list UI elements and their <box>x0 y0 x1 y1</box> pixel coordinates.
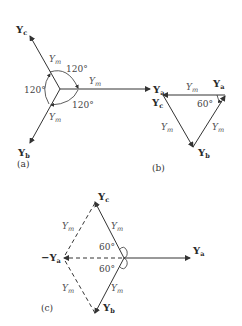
label-ym-a: Ym <box>89 76 101 88</box>
label-ym-left: Ym <box>161 122 173 134</box>
label-ym-lower-left: Ym <box>62 283 74 295</box>
angle-label-lower: 60° <box>99 264 115 274</box>
angle-label-upper: 60° <box>99 242 115 252</box>
dashed-yb-to-neg-ya <box>64 259 95 313</box>
angle-label-1: 120° <box>66 64 88 74</box>
label-ym-c: Ym <box>49 54 61 66</box>
label-ym-b: Ym <box>49 112 61 124</box>
label-neg-ya: −Ya <box>41 252 62 265</box>
angle-label-60: 60° <box>197 99 213 109</box>
label-ym-upper-left: Ym <box>62 221 74 233</box>
label-ym-lower-right: Ym <box>111 283 123 295</box>
label-yb: Yb <box>197 147 210 160</box>
angle-label-2: 120° <box>24 85 46 95</box>
caption-a: (a) <box>17 159 29 169</box>
label-yc: Yc <box>15 24 27 37</box>
label-ya: Ya <box>192 245 205 258</box>
label-yc: Yc <box>151 97 163 110</box>
label-ym-upper-right: Ym <box>111 221 123 233</box>
angle-label-3: 120° <box>72 100 94 110</box>
panel-c: Ya Yc Yb −Ya Ym Ym Ym Ym 60° 60° (c) <box>41 191 205 315</box>
label-yb: Yb <box>102 302 115 315</box>
caption-c: (c) <box>41 303 53 313</box>
panel-a: Ya Yc Yb Ym Ym Ym 120° 120° 120° (a) <box>15 24 165 169</box>
label-ym-top: Ym <box>186 82 198 94</box>
phasor-diagram: Ya Yc Yb Ym Ym Ym 120° 120° 120° (a) Ya … <box>0 0 242 326</box>
label-ym-right: Ym <box>212 122 224 134</box>
side-c-to-b <box>163 95 193 147</box>
label-yc: Yc <box>97 191 109 204</box>
angle-arc-60 <box>217 95 221 102</box>
caption-b: (b) <box>152 163 165 173</box>
label-ya: Ya <box>212 78 225 91</box>
